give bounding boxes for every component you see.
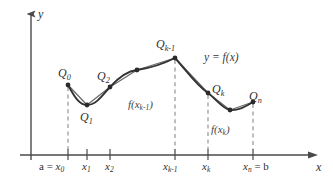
point-label-qn: Qn [249, 90, 262, 102]
tick-label-x1: x1 [82, 161, 91, 172]
tick-label-xn-sub: n [248, 165, 252, 174]
figure-canvas [0, 0, 333, 180]
tick-label-xn-suffix: = b [254, 160, 268, 172]
tick-label-xk: xk [202, 161, 210, 172]
point-label-q1-sub: 1 [89, 117, 93, 126]
point-label-q1-base: Q [80, 110, 89, 124]
tick-label-x0: a = x0 [39, 161, 64, 172]
point-label-qk-1: Qk-1 [156, 38, 175, 50]
point-label-q2-base: Q [97, 69, 106, 83]
point-label-qk: Qk [212, 83, 224, 95]
axes-group [20, 14, 313, 160]
value-label-f-xk-1-tail: ) [149, 98, 153, 110]
arc-length-approximation-figure: y x y = f(x) Q0 Q1 Q2 Qk-1 Qk Qn f(xk-1)… [0, 0, 333, 180]
point-label-qk-1-base: Q [156, 37, 165, 51]
point-label-q2-sub: 2 [106, 76, 110, 85]
point-label-qk-sub: k [221, 89, 225, 98]
point-label-q0-sub: 0 [67, 73, 71, 82]
value-label-f-xk-1-sub: k-1 [140, 103, 150, 112]
point-q2 [108, 85, 113, 90]
value-label-f-xk-1-base: f(x [128, 98, 140, 110]
point-q0 [66, 83, 71, 88]
tick-label-x2-sub: 2 [110, 165, 114, 174]
value-label-f-xk-tail: ) [226, 123, 230, 135]
point-label-qn-sub: n [258, 96, 262, 105]
point-label-q2: Q2 [97, 70, 110, 82]
tick-label-xn: xn = b [243, 161, 269, 172]
tick-label-x1-sub: 1 [87, 165, 91, 174]
point-label-q0-base: Q [58, 66, 67, 80]
point-label-qk-1-sub: k-1 [165, 44, 175, 53]
point-label-qn-base: Q [249, 89, 258, 103]
tick-label-xk-1: xk-1 [163, 161, 177, 172]
value-label-f-xk-sub: k [223, 128, 226, 137]
tick-label-x0-prefix: a = [39, 160, 53, 172]
point-q1 [85, 103, 90, 108]
point-unlabeled-valley [228, 108, 233, 113]
value-label-f-xk-1: f(xk-1) [128, 99, 153, 110]
tick-label-x2: x2 [105, 161, 114, 172]
tick-label-x0-sub: 0 [60, 165, 64, 174]
curve-equation-label: y = f(x) [204, 52, 239, 64]
x-axis-label: x [316, 161, 321, 173]
point-label-q1: Q1 [80, 111, 93, 123]
point-qk [206, 91, 211, 96]
value-label-f-xk: f(xk) [211, 124, 230, 135]
function-curve [68, 58, 253, 110]
point-qk-1 [173, 56, 178, 61]
point-label-q0: Q0 [58, 67, 71, 79]
point-unlabeled-mid [135, 68, 140, 73]
y-axis-label: y [38, 8, 43, 20]
point-label-qk-base: Q [212, 82, 221, 96]
value-label-f-xk-base: f(x [211, 123, 223, 135]
tick-label-xk-sub: k [207, 165, 210, 174]
tick-label-xk-1-sub: k-1 [168, 165, 178, 174]
